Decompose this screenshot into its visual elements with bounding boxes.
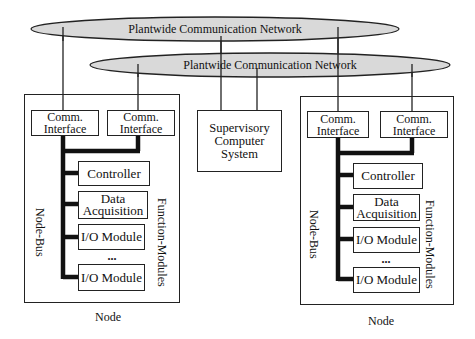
module-label: Acquisition [356,206,417,221]
node-bus-label-left: Node-Bus [32,208,47,257]
data-acquisition-module-left: DataAcquisition [78,191,148,219]
io-module-left-2: I/O Module [78,264,145,291]
node-label-left: Node [95,310,121,325]
ellipsis-left: ... [100,250,124,262]
comm-interface-left-2: Comm.Interface [107,110,175,136]
io-module-left-1: I/O Module [78,224,145,250]
module-label: Acquisition [83,203,144,218]
module-label: I/O Module [356,234,417,246]
controller-module-right: Controller [353,163,423,189]
network-label-2: Plantwide Communication Network [170,58,370,73]
node-label-right: Node [368,314,394,329]
comm-interface-line: Interface [120,122,163,136]
controller-module-left: Controller [78,161,150,186]
supervisory-computer-system: SupervisoryComputerSystem [197,110,282,172]
function-modules-label-left: Function-Modules [154,198,169,287]
comm-interface-line: Interface [317,124,360,138]
module-label: Controller [361,170,414,182]
io-module-right-1: I/O Module [353,227,420,253]
comm-interface-line: Interface [393,124,436,138]
module-label: I/O Module [356,274,417,286]
supervisory-line: Supervisory [209,121,269,135]
comm-interface-right-1: Comm.Interface [307,111,369,138]
module-label: Controller [87,168,140,180]
comm-interface-left-1: Comm.Interface [31,110,99,136]
function-modules-label-right: Function-Modules [422,200,437,289]
data-acquisition-module-right: DataAcquisition [353,194,420,221]
module-label: I/O Module [81,231,142,243]
comm-interface-right-2: Comm.Interface [380,111,448,138]
module-label: I/O Module [81,272,142,284]
supervisory-line: Computer [214,134,264,148]
ellipsis-right: ... [374,253,398,265]
node-bus-label-right: Node-Bus [306,210,321,259]
supervisory-line: System [221,147,258,161]
comm-interface-line: Interface [44,122,87,136]
network-label-1: Plantwide Communication Network [115,22,315,37]
io-module-right-2: I/O Module [353,267,420,293]
